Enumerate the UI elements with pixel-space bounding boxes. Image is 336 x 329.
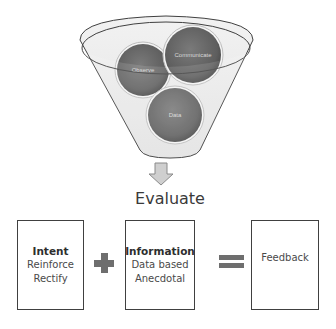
circle-label-communicate: Communicate bbox=[174, 52, 212, 58]
feedback-box: Feedback bbox=[251, 220, 319, 310]
intent-box: Intent Reinforce Rectify bbox=[17, 220, 84, 310]
information-line-1: Data based bbox=[131, 258, 188, 272]
information-box: Information Data based Anecdotal bbox=[125, 220, 195, 310]
intent-line-2: Rectify bbox=[33, 272, 67, 286]
diagram-canvas: Observe Communicate Data Evaluate Intent… bbox=[0, 0, 336, 329]
intent-line-1: Reinforce bbox=[27, 258, 74, 272]
equals-icon bbox=[219, 255, 244, 269]
evaluate-label: Evaluate bbox=[120, 189, 220, 208]
feedback-label: Feedback bbox=[261, 251, 309, 265]
information-line-2: Anecdotal bbox=[135, 272, 185, 286]
funnel-graphic: Observe Communicate Data bbox=[0, 0, 336, 190]
intent-title: Intent bbox=[32, 244, 68, 258]
down-arrow-icon bbox=[149, 163, 173, 185]
plus-icon bbox=[94, 253, 114, 273]
information-title: Information bbox=[125, 244, 195, 258]
